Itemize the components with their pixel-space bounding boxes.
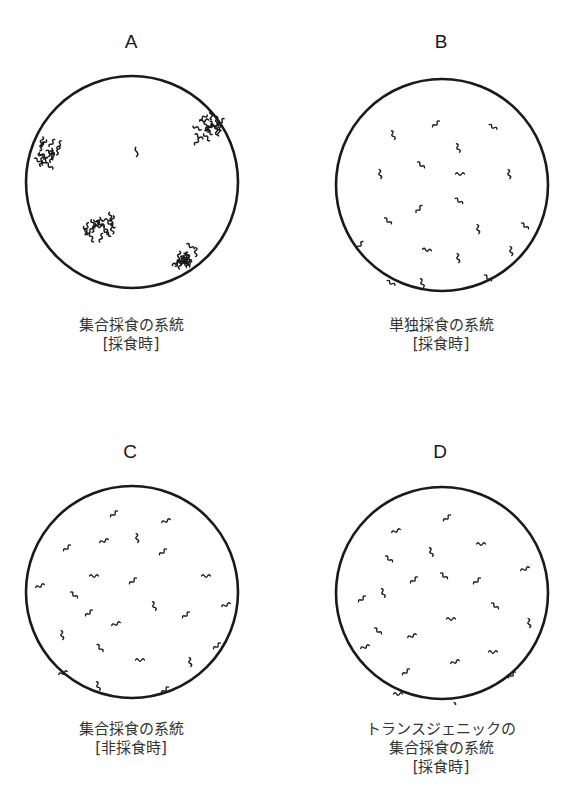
petri-dish-b bbox=[330, 73, 554, 297]
panel-label-d: D bbox=[420, 441, 460, 463]
petri-dish-d bbox=[330, 481, 554, 705]
caption-a-line2: [採食時] bbox=[11, 335, 251, 354]
caption-c-line2: [非採食時] bbox=[11, 739, 251, 758]
caption-a-line1: 集合採食の系統 bbox=[11, 316, 251, 335]
caption-b-line2: [採食時] bbox=[321, 335, 561, 354]
caption-d-line3: [採食時] bbox=[321, 758, 561, 777]
caption-d-line2: 集合採食の系統 bbox=[321, 739, 561, 758]
panel-label-a: A bbox=[111, 31, 151, 53]
petri-dish-c bbox=[20, 480, 244, 704]
caption-a: 集合採食の系統 [採食時] bbox=[11, 316, 251, 354]
panel-label-b: B bbox=[421, 31, 461, 53]
caption-d-line1: トランスジェニックの bbox=[321, 720, 561, 739]
caption-c-line1: 集合採食の系統 bbox=[11, 720, 251, 739]
caption-d: トランスジェニックの 集合採食の系統 [採食時] bbox=[321, 720, 561, 777]
panel-label-c: C bbox=[110, 441, 150, 463]
caption-b: 単独採食の系統 [採食時] bbox=[321, 316, 561, 354]
caption-c: 集合採食の系統 [非採食時] bbox=[11, 720, 251, 758]
caption-b-line1: 単独採食の系統 bbox=[321, 316, 561, 335]
petri-dish-a bbox=[20, 70, 244, 294]
